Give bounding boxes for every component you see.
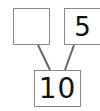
part-right-value: 5 (74, 12, 91, 42)
whole-value: 10 (39, 72, 77, 105)
connector-right (65, 45, 74, 70)
part-box-right: 5 (64, 8, 100, 45)
connector-left (38, 45, 50, 70)
part-box-left-empty[interactable] (13, 8, 50, 45)
whole-box: 10 (34, 70, 81, 107)
